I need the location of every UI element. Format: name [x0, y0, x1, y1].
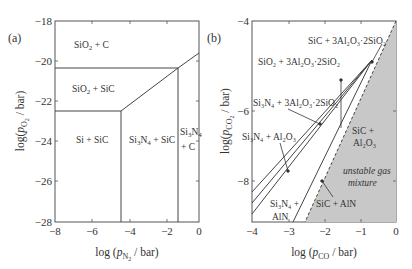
region-sio2-mullite: SiO₂ + 3Al₂O₃·2SiO₂ [258, 57, 340, 67]
svg-text:−20: −20 [35, 55, 53, 67]
region-unstable-line2: mixture [348, 178, 377, 188]
svg-text:−1: −1 [355, 225, 367, 237]
region-si3n4-aln-line1: Si₃N₄ + [270, 199, 299, 209]
panel-b: (b) −4 −6 −8 −4 −3 −2 −1 0 log (pCO / ba… [207, 15, 399, 261]
svg-text:−8: −8 [237, 175, 249, 187]
figure: (a) −18 −20 −22 −24 −26 −28 −8 −6 [0, 0, 412, 269]
svg-text:−6: −6 [86, 225, 98, 237]
region-si3n4-aln-line2: AlN [272, 212, 289, 222]
panel-a: (a) −18 −20 −22 −24 −26 −28 −8 −6 [8, 15, 202, 262]
panel-a-x-axis-label: log (pN2 / bar) [95, 246, 159, 262]
svg-text:−8: −8 [49, 225, 61, 237]
panel-b-label: (b) [207, 31, 221, 45]
svg-text:−2: −2 [319, 225, 331, 237]
svg-text:−18: −18 [35, 15, 53, 27]
svg-text:−3: −3 [283, 225, 295, 237]
svg-text:−4: −4 [246, 225, 258, 237]
panel-b-y-tick-labels: −4 −6 −8 [237, 15, 249, 187]
svg-text:−6: −6 [237, 105, 249, 117]
panel-a-x-tick-labels: −8 −6 −4 −2 0 [49, 225, 202, 237]
panel-b-x-tick-labels: −4 −3 −2 −1 0 [246, 225, 399, 237]
panel-a-label: (a) [8, 31, 21, 45]
region-si3n4-c-line2: + C [181, 142, 195, 152]
panel-a-y-axis-label: log(pO2 / bar) [14, 91, 30, 152]
svg-text:−24: −24 [35, 135, 53, 147]
panel-b-y-axis-label: log(pCO2 / bar) [219, 88, 235, 154]
svg-text:−4: −4 [237, 15, 249, 27]
panel-a-plot-frame [55, 21, 199, 222]
region-sic-aln: SiC + AlN [316, 199, 356, 209]
svg-text:−22: −22 [35, 95, 52, 107]
region-si-sic: Si + SiC [76, 135, 108, 145]
svg-text:0: 0 [393, 225, 399, 237]
region-sic-mullite: SiC + 3Al₂O₃·2SiO₂ [308, 36, 386, 46]
svg-text:−26: −26 [35, 175, 53, 187]
region-si3n4-al2o3: Si₃N₄ + Al₂O₃ [242, 132, 296, 142]
svg-text:−2: −2 [161, 225, 173, 237]
svg-text:−4: −4 [124, 225, 136, 237]
svg-text:0: 0 [196, 225, 202, 237]
region-sic-al2o3-line2: Al₂O₃ [353, 138, 376, 148]
region-sic-al2o3-line1: SiC + [352, 126, 374, 136]
region-si3n4-mullite: Si₃N₄ + 3Al₂O₃·2SiO₂ [253, 98, 338, 108]
panel-a-y-tick-labels: −18 −20 −22 −24 −26 −28 [35, 15, 53, 228]
panel-b-x-axis-label: log (pCO / bar) [291, 246, 357, 261]
region-unstable-line1: unstable gas [343, 166, 391, 176]
